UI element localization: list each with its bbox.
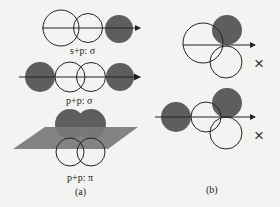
nodal-plane [13,127,138,149]
row-label: p+p: π [67,172,93,183]
p-lobe-open [210,117,242,149]
orbital-overlap-diagram: s+p: σ p+p: σ p+p: π (a) × × (b) [0,0,280,207]
b-bottom-nonbonding: × (b) [155,88,264,196]
p-lobe-open [210,46,242,78]
p-lobe-filled [212,88,242,118]
cross-mark-icon: × [254,126,264,145]
p-lobe-filled [105,15,133,43]
b-top-nonbonding: × [183,15,264,78]
row-p-p-pi: p+p: π (a) [13,109,138,198]
row-label: p+p: σ [66,95,93,106]
p-lobe-filled [212,15,242,45]
cross-mark-icon: × [254,54,264,73]
row-p-p-sigma: p+p: σ [19,62,140,106]
panel-label: (a) [75,186,86,198]
row-label: s+p: σ [70,45,96,56]
row-s-p-sigma: s+p: σ [42,10,140,56]
s-orbital [183,23,223,63]
panel-label: (b) [206,184,218,196]
